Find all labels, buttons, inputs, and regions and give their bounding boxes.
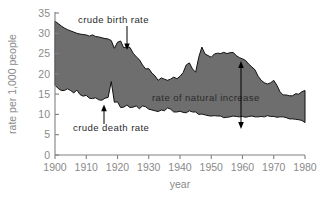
x-tick-1940: 1940 [168,161,192,173]
y-tick-25: 25 [38,47,50,59]
x-tick-1980: 1980 [293,161,317,173]
x-axis-labels: 1900 1910 1920 1930 1940 1950 1960 1970 … [43,161,317,173]
y-tick-10: 10 [38,108,50,120]
chart-container: 0 5 10 15 20 25 30 35 1900 1910 1920 193… [0,0,335,198]
y-tick-35: 35 [38,7,50,19]
annotation-crude-birth-rate: crude birth rate [78,14,149,25]
x-axis-title: year [170,178,191,190]
demographic-transition-chart: 0 5 10 15 20 25 30 35 1900 1910 1920 193… [0,0,335,198]
x-tick-1950: 1950 [200,161,224,173]
y-tick-0: 0 [44,149,50,161]
x-tick-1910: 1910 [75,161,99,173]
annotation-natural-increase: rate of natural increase [152,92,260,103]
x-tick-1960: 1960 [231,161,255,173]
x-tick-1900: 1900 [43,161,67,173]
x-tick-1920: 1920 [106,161,130,173]
x-tick-1970: 1970 [262,161,286,173]
x-axis-ticks [55,155,305,159]
natural-increase-band [55,21,305,122]
y-tick-30: 30 [38,27,50,39]
y-tick-20: 20 [38,68,50,80]
y-axis-labels: 0 5 10 15 20 25 30 35 [38,7,50,161]
y-tick-5: 5 [44,128,50,140]
y-tick-15: 15 [38,88,50,100]
y-axis-title: rate per 1,000 people [6,34,18,134]
annotation-crude-death-rate: crude death rate [73,122,149,133]
birth-rate-arrow [124,26,130,50]
x-tick-1930: 1930 [137,161,161,173]
